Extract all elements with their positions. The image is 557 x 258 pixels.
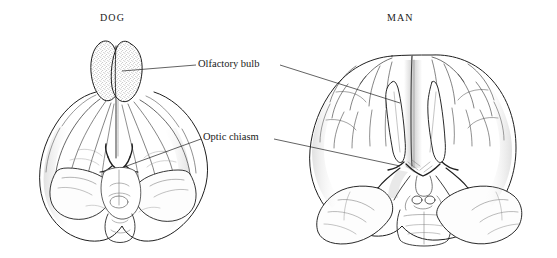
leader-olfactory-bulb-right <box>280 65 400 103</box>
human-olfactory-tract-right <box>428 81 446 162</box>
dog-hypothalamic-region <box>101 167 141 219</box>
anatomical-illustration <box>0 0 557 258</box>
leader-optic-chiasm-left <box>124 139 201 167</box>
human-infundibulum <box>416 176 433 196</box>
human-brain <box>310 55 522 246</box>
dog-temporal-lobe-right <box>135 170 196 221</box>
human-mammillary-bodies <box>405 196 442 210</box>
leader-optic-chiasm-right <box>274 139 400 166</box>
callout-leader-lines <box>122 65 400 167</box>
comparative-brain-figure: DOG MAN Olfactory bulb Optic chiasm <box>0 0 557 258</box>
human-olfactory-tract-left <box>386 81 406 162</box>
